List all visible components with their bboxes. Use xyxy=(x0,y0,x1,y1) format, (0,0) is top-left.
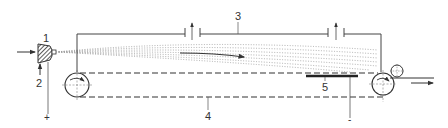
label-belt: 4 xyxy=(205,111,211,122)
output-web xyxy=(390,78,434,83)
label-gas-inlet: 2 xyxy=(36,78,42,89)
label-positive-terminal: + xyxy=(44,113,50,123)
nozzle xyxy=(38,44,56,63)
label-chamber: 3 xyxy=(235,11,241,22)
apparatus-diagram xyxy=(0,0,448,128)
label-nozzle: 1 xyxy=(43,33,49,44)
spray-plume xyxy=(56,44,378,72)
label-collector: 5 xyxy=(322,82,328,93)
pressure-roller xyxy=(390,64,404,78)
chamber-housing xyxy=(77,28,381,72)
left-roller xyxy=(62,70,92,100)
label-negative-terminal: - xyxy=(348,115,351,125)
